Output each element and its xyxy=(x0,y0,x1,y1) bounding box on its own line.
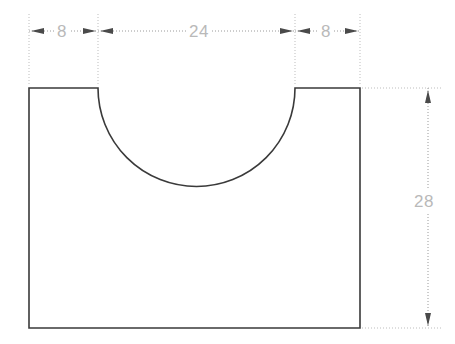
arrowhead-height-bottom xyxy=(425,313,431,326)
arrowhead-notch-width-start xyxy=(100,28,113,34)
part-outline-path xyxy=(29,88,360,328)
technical-drawing-canvas: 8 24 8 28 xyxy=(0,0,455,344)
arrowhead-right-flange-start xyxy=(297,28,310,34)
arrowhead-height-top xyxy=(425,90,431,103)
extension-lines xyxy=(29,14,442,328)
arrowhead-left-flange-start xyxy=(31,28,44,34)
dimension-label-left-flange: 8 xyxy=(54,23,70,40)
arrowhead-right-flange-end xyxy=(345,28,358,34)
arrowhead-left-flange-end xyxy=(83,28,96,34)
dimension-label-right-flange: 8 xyxy=(318,23,334,40)
arrowhead-notch-width-end xyxy=(280,28,293,34)
dimension-label-notch-width: 24 xyxy=(186,23,212,40)
drawing-vector-layer xyxy=(0,0,455,344)
dimension-label-overall-height: 28 xyxy=(412,190,436,213)
dimension-arrowheads xyxy=(31,28,431,326)
